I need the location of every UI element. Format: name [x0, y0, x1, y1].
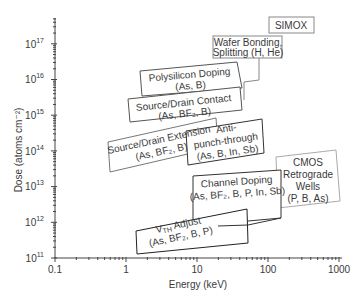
- y-tick-label: 1017: [25, 37, 44, 50]
- y-tick-label: 1015: [25, 108, 44, 121]
- x-tick-label: 10: [191, 264, 203, 275]
- region-wafer-bonding-extent: [244, 58, 259, 100]
- label-simox: SIMOX: [275, 20, 308, 31]
- label-cmos-2: Retrograde: [283, 169, 333, 180]
- y-tick-label: 1016: [25, 72, 44, 85]
- x-tick-label: 1000: [328, 264, 351, 275]
- y-tick-label: 1011: [26, 251, 44, 264]
- x-tick-labels: 0.1 1 10 100 1000: [48, 264, 351, 275]
- x-tick-label: 0.1: [48, 264, 62, 275]
- y-tick-label: 1012: [25, 215, 44, 228]
- y-axis-ticks: [51, 19, 57, 258]
- y-tick-labels: 1011 1012 1013 1014 1015 1016 1017: [25, 37, 44, 264]
- x-tick-label: 1: [123, 264, 129, 275]
- label-cmos-3: Wells: [296, 181, 320, 192]
- y-tick-label: 1013: [25, 179, 44, 192]
- label-cmos-1: CMOS: [293, 157, 323, 168]
- y-axis-title: Dose (atoms cm⁻²): [13, 108, 24, 193]
- label-cmos-4: (P, B, As): [288, 193, 329, 204]
- label-wafer-bonding-2: Splitting (H, He): [213, 47, 284, 58]
- x-axis-title: Energy (keV): [169, 279, 227, 290]
- implant-dose-energy-chart: 1011 1012 1013 1014 1015 1016 1017 0.1 1…: [0, 0, 363, 303]
- x-tick-label: 100: [260, 264, 277, 275]
- y-tick-label: 1014: [25, 144, 44, 157]
